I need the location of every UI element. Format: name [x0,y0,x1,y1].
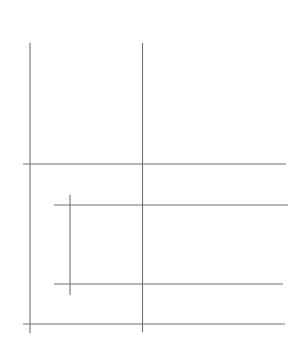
canvas-background [0,0,306,339]
drawing-canvas [0,0,306,339]
line-drawing-figure [0,0,306,339]
